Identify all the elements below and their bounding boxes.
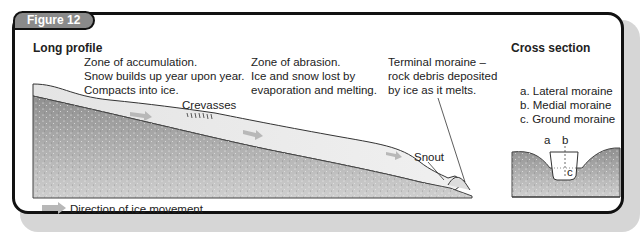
snout-label: Snout xyxy=(414,150,444,164)
zone-accumulation-line2: Snow builds up year upon year. xyxy=(84,69,244,83)
zone-accumulation-line1: Zone of accumulation. xyxy=(84,55,197,69)
terminal-moraine-line3: by ice as it melts. xyxy=(388,83,476,97)
bedrock xyxy=(33,96,472,198)
terminal-moraine-leader xyxy=(438,98,465,182)
zone-accumulation-line3: Compacts into ice. xyxy=(84,83,179,97)
right-arrow-icon xyxy=(42,202,66,214)
cross-section-valley xyxy=(512,146,620,197)
long-profile-title: Long profile xyxy=(33,41,102,55)
zone-abrasion-line2: Ice and snow lost by xyxy=(251,69,355,83)
crevasses-label: Crevasses xyxy=(182,98,236,112)
terminal-moraine-line1: Terminal moraine – xyxy=(388,55,486,69)
legend-lateral-moraine: a. Lateral moraine xyxy=(520,84,613,98)
terminal-moraine-line2: rock debris deposited xyxy=(388,69,497,83)
legend-ground-moraine: c. Ground moraine xyxy=(520,112,615,126)
marker-a: a xyxy=(544,133,550,147)
legend-medial-moraine: b. Medial moraine xyxy=(520,98,611,112)
zone-abrasion-line3: evaporation and melting. xyxy=(251,83,377,97)
key-label: Direction of ice movement xyxy=(70,202,203,216)
zone-abrasion-line1: Zone of abrasion. xyxy=(251,55,341,69)
marker-b: b xyxy=(562,133,568,147)
cross-section-title: Cross section xyxy=(511,41,590,55)
marker-c: c xyxy=(567,165,573,179)
